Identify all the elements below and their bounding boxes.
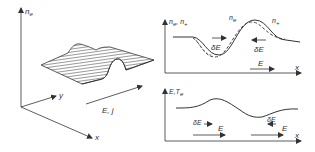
e-j-label: E, j — [102, 106, 114, 115]
nplus-label: n+ — [272, 17, 280, 26]
axis-x — [21, 107, 92, 138]
delta-e-right-label: δE — [254, 45, 264, 54]
axis-y-label: y — [58, 91, 64, 100]
density-surface — [41, 44, 154, 84]
field-e-label: E — [258, 59, 264, 68]
ne-label: ne — [229, 14, 237, 23]
field-e-right-label: E — [282, 124, 288, 133]
axis-x-label: x — [94, 133, 100, 142]
ne-curve — [173, 20, 300, 55]
delta-e-right-label: δE — [267, 116, 276, 123]
field-e-left-label: E — [218, 124, 224, 133]
axis-vertical-label: E,Te — [169, 88, 184, 97]
axis-n-label: ne — [25, 7, 33, 17]
e-te-curve — [176, 99, 298, 118]
diagram-canvas: ne y x E, j ne, n+ x ne n+ δE δE E E,Te … — [0, 0, 315, 152]
delta-e-left-label: δE — [211, 43, 221, 52]
delta-e-left-label: δE — [193, 119, 202, 126]
nplus-curve — [193, 22, 285, 57]
axis-y — [21, 96, 56, 107]
axis-x-label: x — [294, 131, 300, 140]
bottom-right-field-plot: E,Te x δE E δE E — [165, 88, 301, 141]
axis-x-label: x — [294, 63, 300, 72]
left-3d-panel: ne y x E, j — [21, 7, 154, 142]
axis-vertical-label: ne, n+ — [169, 18, 188, 27]
e-j-arrow — [86, 86, 142, 104]
top-right-density-plot: ne, n+ x ne n+ δE δE E — [165, 14, 301, 73]
